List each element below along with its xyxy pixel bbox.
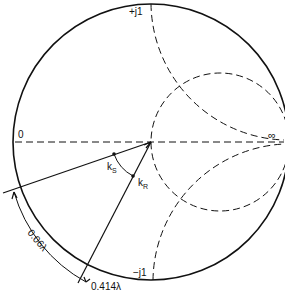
label-zero: 0: [18, 129, 24, 140]
ks-point: [112, 152, 116, 156]
label-infinity: ∞: [268, 129, 276, 141]
label-kr: kR: [138, 177, 148, 190]
x-plus1-arc: [151, 4, 284, 140]
x-minus1-arc: [153, 144, 284, 280]
kr-point: [131, 174, 135, 178]
label-ks: kS: [107, 161, 117, 174]
label-minus-j1: −j1: [133, 267, 147, 278]
ks-kr-arc: [114, 154, 133, 176]
smith-chart: 0 ∞ +j1 −j1 kS kR 0.06λ 0.414λ: [0, 0, 285, 295]
label-plus-j1: +j1: [129, 6, 143, 17]
label-wavelength: 0.414λ: [91, 281, 121, 292]
